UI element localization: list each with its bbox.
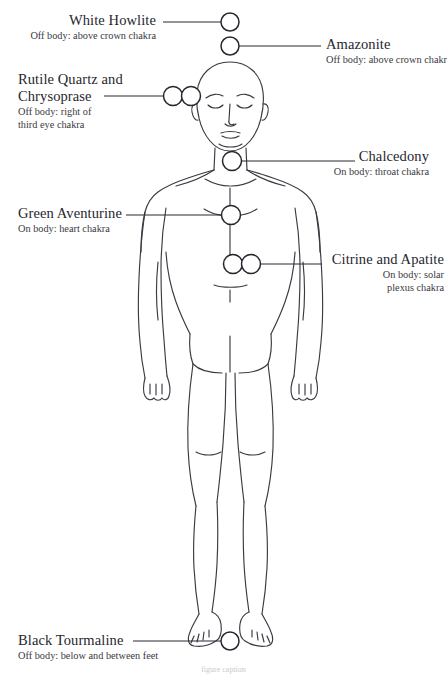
crystal-markers [164,13,261,650]
label-sub-chalcedony: On body: throat chakra [296,166,429,178]
white-howlite-marker[interactable] [221,13,239,31]
label-sub-citrine-line2: plexus chakra [326,282,444,294]
label-citrine-apatite: Citrine and Apatite On body: solar plexu… [326,251,444,294]
green-aventurine-marker[interactable] [222,206,241,225]
label-sub-rutile-line1: Off body: right of [18,106,168,118]
label-amazonite: Amazonite Off body: above crown chakra [326,36,447,66]
figure-bottom-note-text: figure caption [0,665,447,674]
label-title-chalcedony: Chalcedony [296,148,429,165]
label-sub-amazonite: Off body: above crown chakra [326,54,447,66]
label-sub-green-aventurine: On body: heart chakra [18,223,168,235]
label-sub-citrine-line1: On body: solar [326,269,444,281]
figure-bottom-note: figure caption [0,664,447,674]
label-title-amazonite: Amazonite [326,36,447,53]
apatite-marker[interactable] [242,255,261,274]
amazonite-marker[interactable] [221,37,239,55]
black-tourmaline-marker[interactable] [221,632,239,650]
label-white-howlite: White Howlite Off body: above crown chak… [0,12,156,42]
label-black-tourmaline: Black Tourmaline Off body: below and bet… [18,632,198,662]
label-sub-white-howlite: Off body: above crown chakra [0,30,156,42]
chalcedony-marker[interactable] [223,152,242,171]
label-chalcedony: Chalcedony On body: throat chakra [296,148,429,178]
label-sub-black-tourmaline: Off body: below and between feet [18,650,198,662]
label-green-aventurine: Green Aventurine On body: heart chakra [18,205,168,235]
label-title-rutile-line1: Rutile Quartz and [18,71,168,88]
citrine-marker[interactable] [224,255,243,274]
label-title-white-howlite: White Howlite [0,12,156,29]
label-title-green-aventurine: Green Aventurine [18,205,168,222]
label-rutile-quartz-chrysoprase: Rutile Quartz and Chrysoprase Off body: … [18,71,168,132]
chrysoprase-marker[interactable] [182,87,201,106]
crystal-placement-diagram: White Howlite Off body: above crown chak… [0,0,447,674]
label-title-citrine-apatite: Citrine and Apatite [326,251,444,268]
label-title-rutile-line2: Chrysoprase [18,88,168,105]
label-sub-rutile-line2: third eye chakra [18,119,168,131]
human-body-outline [138,62,322,646]
label-title-black-tourmaline: Black Tourmaline [18,632,198,649]
